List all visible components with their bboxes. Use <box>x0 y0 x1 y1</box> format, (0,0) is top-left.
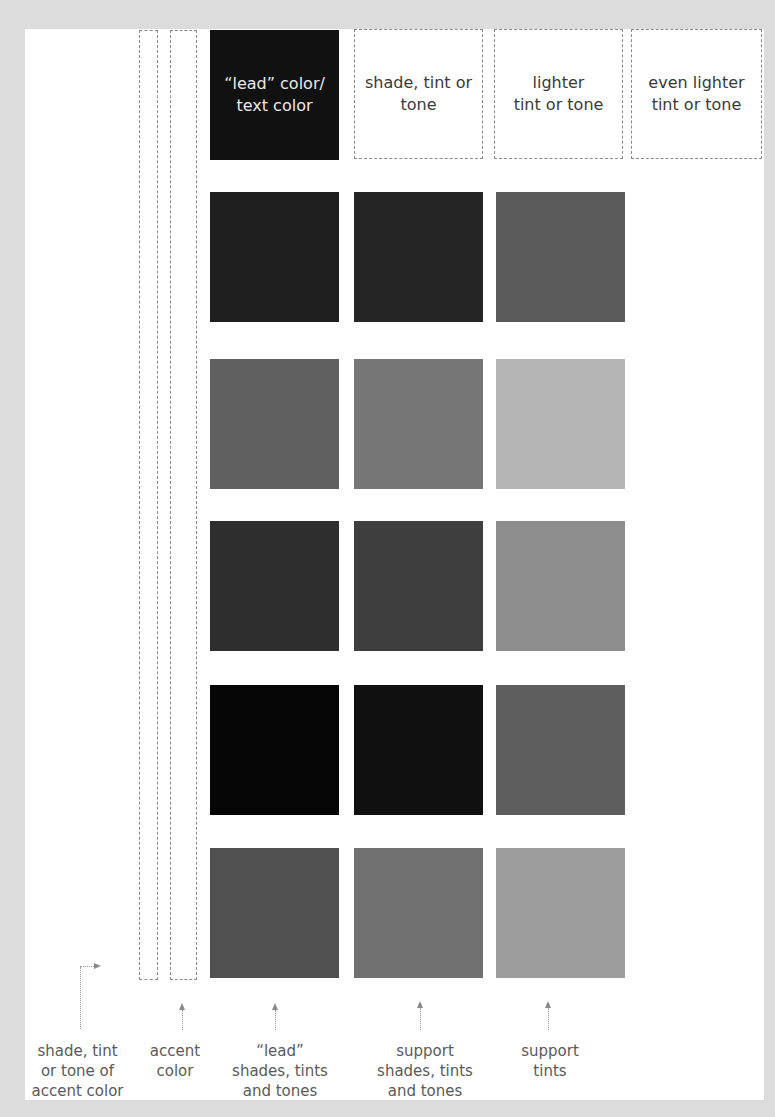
accent-shade-pointer-line <box>80 967 81 1029</box>
support-pointer-line <box>420 1008 421 1030</box>
swatch-tint <box>496 192 625 322</box>
swatch-lead <box>210 848 339 978</box>
accent-shade-column <box>139 30 158 980</box>
arrow-up-icon <box>179 1003 185 1010</box>
accent-color-column <box>170 30 197 980</box>
arrow-up-icon <box>272 1003 278 1010</box>
arrow-up-icon <box>545 1001 551 1008</box>
swatch-tint <box>496 685 625 815</box>
lead-color-swatch: “lead” color/ text color <box>210 30 339 160</box>
arrow-up-icon <box>417 1001 423 1008</box>
caption-support-tints: support tints <box>510 1041 590 1081</box>
caption-accent-color: accent color <box>140 1041 210 1081</box>
shade-tint-tone-placeholder: shade, tint or tone <box>354 29 483 159</box>
support-tints-pointer-line <box>548 1008 549 1030</box>
swatch-lead <box>210 521 339 651</box>
accent-pointer-line <box>182 1010 183 1030</box>
even-lighter-tint-placeholder: even lighter tint or tone <box>631 29 762 159</box>
swatch-support <box>354 192 483 322</box>
swatch-tint <box>496 359 625 489</box>
swatch-support <box>354 521 483 651</box>
lead-pointer-line <box>275 1010 276 1030</box>
caption-lead: “lead” shades, tints and tones <box>225 1041 335 1101</box>
arrow-right-icon <box>94 963 101 969</box>
swatch-support <box>354 848 483 978</box>
swatch-lead <box>210 192 339 322</box>
swatch-lead <box>210 685 339 815</box>
swatch-tint <box>496 848 625 978</box>
lighter-tint-placeholder: lighter tint or tone <box>494 29 623 159</box>
swatch-support <box>354 685 483 815</box>
swatch-tint <box>496 521 625 651</box>
accent-shade-pointer-hline <box>80 966 94 967</box>
swatch-support <box>354 359 483 489</box>
caption-support: support shades, tints and tones <box>370 1041 480 1101</box>
caption-accent-shade: shade, tint or tone of accent color <box>20 1041 135 1101</box>
swatch-lead <box>210 359 339 489</box>
